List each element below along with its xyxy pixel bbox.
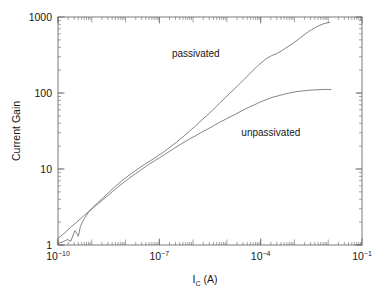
x-tick-label-base: 10 (149, 250, 161, 262)
x-tick-label-exponent: −10 (58, 250, 70, 257)
y-tick-label: 100 (34, 87, 52, 99)
annotation-unpassivated: unpassivated (241, 127, 300, 138)
x-tick-label-base: 10 (251, 250, 263, 262)
current-gain-vs-collector-current-chart: 10−1010−710−410−1 1101001000 passivatedu… (0, 0, 389, 296)
figure-container: 10−1010−710−410−1 1101001000 passivatedu… (0, 0, 389, 296)
x-tick-label-exponent: −4 (263, 250, 271, 257)
x-tick-label-base: 10 (46, 250, 58, 262)
annotation-passivated: passivated (172, 48, 220, 59)
y-tick-label: 1000 (29, 11, 53, 23)
x-tick-label-exponent: −1 (364, 250, 372, 257)
y-tick-label: 10 (40, 163, 52, 175)
y-axis-title: Current Gain (10, 101, 22, 161)
x-tick-label-exponent: −7 (161, 250, 169, 257)
y-tick-label: 1 (46, 239, 52, 251)
x-axis-title-unit: (A) (201, 273, 218, 285)
x-tick-label-base: 10 (352, 250, 364, 262)
